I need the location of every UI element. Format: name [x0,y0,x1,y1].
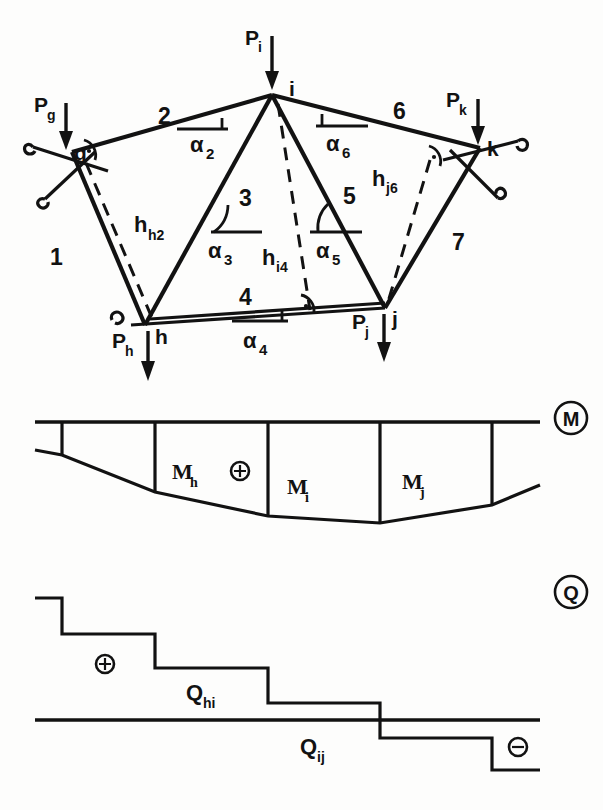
load-arrow-Pj [377,314,391,362]
load-arrow-Ph [141,331,155,381]
moment-subscript-Mh: h [190,475,198,490]
load-arrow-Pg [59,103,73,150]
shear-step-curve [35,598,540,770]
load-label-Pg: P g [34,93,56,123]
lever-arm-label-hh2: h h2 [134,212,165,243]
load-label-Pk: P k [446,88,467,118]
lever-arm-subscript-hj6: j6 [385,180,398,196]
lever-arm-subscript-hh2: h2 [148,227,165,243]
member-label-4: 4 [239,284,252,310]
load-symbol-Pi: P [245,26,259,49]
moment-diagram-badge: M [555,402,587,434]
member-label-3: 3 [239,185,252,211]
member-label-2: 2 [158,103,171,129]
angle-subscript-alpha6: 6 [342,144,350,161]
node-label-j: j [391,307,398,330]
load-symbol-Pk: P [446,88,460,111]
shear-label-Qhi: Q hi [186,680,215,711]
angle-symbol-alpha3: α [208,238,222,263]
load-symbol-Ph: P [112,329,126,352]
load-subscript-Pj: j [364,324,369,340]
moment-subscript-Mi: i [305,490,309,505]
member-label-1: 1 [50,244,63,270]
shear-symbol-Qij: Q [300,734,317,759]
shear-label-Qij: Q ij [300,734,325,765]
lever-arm-symbol-hj6: h [372,166,385,191]
moment-diagram: M h M i M j M [35,402,587,523]
shear-symbol-Qhi: Q [186,680,203,705]
angle-symbol-alpha5: α [316,238,330,263]
shear-diagram-badge: Q [555,576,587,608]
angle-label-alpha5: α 5 [316,238,340,268]
lever-arm-label-hi4: h i4 [262,245,288,275]
lever-arm-subscript-hi4: i4 [276,259,288,275]
member-1-line [72,152,145,325]
load-symbol-Pj: P [352,310,366,333]
moment-label-Mi: M i [287,474,309,505]
shear-negative-sign [509,738,527,756]
angle-marker-alpha3 [211,205,262,232]
angle-symbol-alpha4: α [243,328,257,353]
moment-label-Mj: M j [402,469,425,500]
node-label-k: k [487,137,499,160]
angle-label-alpha6: α 6 [326,131,350,161]
support-symbol-h [111,312,123,323]
lever-arm-symbol-hh2: h [134,212,147,237]
lever-arm-label-hj6: h j6 [372,166,398,196]
angle-symbol-alpha6: α [326,131,340,156]
moment-positive-sign [231,462,249,480]
load-subscript-Ph: h [125,343,134,359]
angle-label-alpha2: α 2 [190,132,214,162]
angle-subscript-alpha4: 4 [259,341,268,358]
member-7-line [385,148,480,308]
angle-symbol-alpha2: α [190,132,204,157]
member-label-5: 5 [343,183,356,209]
truss-diagram: i g k h j P i P g P k P h P j 2 6 1 3 5 [25,26,528,381]
node-label-g: g [74,141,87,164]
moment-subscript-Mj: j [419,485,425,500]
moment-badge-label: M [563,408,580,430]
moment-label-Mh: M h [172,459,198,490]
shear-badge-label: Q [563,582,579,604]
load-arrow-Pk [471,99,485,145]
load-label-Pj: P j [352,310,369,340]
right-angle-marker-k [429,146,441,166]
member-label-6: 6 [393,98,406,124]
load-symbol-Pg: P [34,93,48,116]
angle-subscript-alpha3: 3 [224,251,232,268]
angle-subscript-alpha2: 2 [206,145,214,162]
load-arrow-Pi [265,36,279,90]
shear-diagram: Q hi Q ij Q [35,576,587,770]
load-subscript-Pi: i [258,39,262,55]
node-label-i: i [289,77,295,100]
shear-positive-sign [96,655,114,673]
shear-subscript-Qij: ij [317,749,325,765]
node-label-h: h [155,325,168,348]
figure-page: i g k h j P i P g P k P h P j 2 6 1 3 5 [0,0,603,810]
engineering-figure: i g k h j P i P g P k P h P j 2 6 1 3 5 [0,0,603,810]
load-subscript-Pg: g [47,107,56,123]
load-subscript-Pk: k [459,102,467,118]
lever-arm-symbol-hi4: h [262,245,275,270]
angle-label-alpha4: α 4 [243,328,268,358]
shear-subscript-Qhi: hi [203,695,215,711]
load-label-Ph: P h [112,329,134,359]
angle-label-alpha3: α 3 [208,238,232,268]
lever-arm-hh2-dash [86,163,152,318]
load-label-Pi: P i [245,26,262,55]
member-2-line [72,95,272,152]
angle-subscript-alpha5: 5 [332,251,340,268]
member-label-7: 7 [452,229,465,255]
